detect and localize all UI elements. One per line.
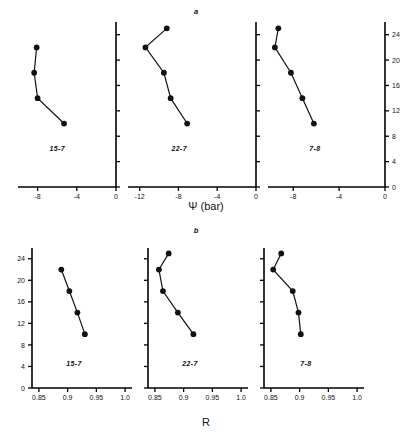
section-letter-a: a — [194, 7, 198, 16]
data-point-b2-3[interactable] — [175, 310, 181, 316]
data-point-b2-1[interactable] — [156, 267, 162, 273]
y-tick-label-a3-3: 12 — [392, 107, 400, 114]
data-point-a1-1[interactable] — [31, 70, 37, 76]
x-axis-title-r: R — [202, 416, 210, 428]
data-point-a2-2[interactable] — [161, 70, 167, 76]
data-point-a3-3[interactable] — [300, 95, 306, 101]
y-tick-label-a3-4: 16 — [392, 82, 400, 89]
panel-label-b2: 22-7 — [181, 360, 198, 367]
x-tick-label-a3-0: -8 — [290, 193, 296, 200]
x-tick-label-a1-0: -8 — [34, 193, 40, 200]
data-point-b3-1[interactable] — [270, 267, 276, 273]
panel-label-a1: 15-7 — [49, 145, 65, 152]
y-tick-label-b1-1: 4 — [21, 363, 25, 370]
data-point-b3-2[interactable] — [290, 288, 296, 294]
data-point-b3-3[interactable] — [296, 310, 302, 316]
data-point-a2-1[interactable] — [143, 44, 149, 50]
data-point-b2-4[interactable] — [191, 331, 197, 337]
y-tick-label-b1-2: 8 — [21, 342, 25, 349]
y-tick-label-a3-1: 4 — [392, 158, 396, 165]
x-tick-label-a2-0: -12 — [135, 193, 145, 200]
y-tick-label-a3-0: 0 — [392, 184, 396, 191]
x-tick-label-b2-3: 1.0 — [236, 394, 246, 401]
x-tick-label-b3-2: 0.95 — [322, 394, 336, 401]
scientific-figure: -8-4015-7-12-8-4022-7-8-40048121620247-8… — [0, 0, 413, 444]
data-point-b2-0[interactable] — [166, 250, 172, 256]
x-tick-label-a1-1: -4 — [74, 193, 80, 200]
data-point-a3-1[interactable] — [272, 44, 278, 50]
data-point-b1-0[interactable] — [58, 267, 64, 273]
x-tick-label-b2-2: 0.95 — [206, 394, 220, 401]
y-tick-label-a3-2: 8 — [392, 133, 396, 140]
data-point-a2-4[interactable] — [184, 121, 190, 127]
data-point-b3-4[interactable] — [298, 331, 304, 337]
data-point-b1-3[interactable] — [82, 331, 88, 337]
section-letter-b: b — [194, 226, 199, 235]
series-line-b1 — [61, 270, 85, 335]
y-tick-label-b1-6: 24 — [17, 255, 25, 262]
series-line-b2 — [159, 253, 193, 334]
x-tick-label-b3-0: 0.85 — [264, 394, 278, 401]
series-line-a1 — [34, 47, 64, 123]
x-tick-label-a3-1: -4 — [336, 193, 342, 200]
x-axis-title-psi: Ψ (bar) — [188, 200, 223, 212]
y-tick-label-a3-6: 24 — [392, 31, 400, 38]
series-line-b3 — [273, 253, 301, 334]
x-tick-label-a2-2: -4 — [214, 193, 220, 200]
data-point-a1-2[interactable] — [35, 95, 41, 101]
x-tick-label-a3-2: 0 — [383, 193, 387, 200]
x-tick-label-b1-1: 0.9 — [63, 394, 73, 401]
data-point-a2-0[interactable] — [164, 25, 170, 31]
panel-label-b3: 7-8 — [300, 360, 311, 367]
x-tick-label-a2-1: -8 — [175, 193, 181, 200]
data-point-a3-0[interactable] — [275, 25, 281, 31]
data-point-a3-2[interactable] — [288, 70, 294, 76]
x-tick-label-b1-2: 0.95 — [90, 394, 104, 401]
x-tick-label-b2-0: 0.85 — [148, 394, 162, 401]
series-line-a3 — [275, 28, 314, 123]
y-tick-label-b1-0: 0 — [21, 385, 25, 392]
data-point-a1-0[interactable] — [34, 44, 40, 50]
data-point-b1-1[interactable] — [66, 288, 72, 294]
panel-label-a3: 7-8 — [309, 145, 320, 152]
y-tick-label-b1-4: 16 — [17, 298, 25, 305]
x-tick-label-a1-2: 0 — [114, 193, 118, 200]
panel-label-b1: 15-7 — [66, 360, 82, 367]
data-point-b3-0[interactable] — [278, 250, 284, 256]
x-tick-label-a2-3: 0 — [254, 193, 258, 200]
panel-label-a2: 22-7 — [170, 145, 187, 152]
figure-canvas: -8-4015-7-12-8-4022-7-8-40048121620247-8… — [0, 0, 413, 444]
data-point-a2-3[interactable] — [168, 95, 174, 101]
series-line-a2 — [145, 28, 187, 123]
y-tick-label-a3-5: 20 — [392, 57, 400, 64]
x-tick-label-b3-3: 1.0 — [352, 394, 362, 401]
data-point-a3-4[interactable] — [311, 121, 317, 127]
data-point-b2-2[interactable] — [160, 288, 166, 294]
x-tick-label-b3-1: 0.9 — [295, 394, 305, 401]
data-point-b1-2[interactable] — [75, 310, 81, 316]
x-tick-label-b1-0: 0.85 — [32, 394, 46, 401]
x-tick-label-b1-3: 1.0 — [120, 394, 130, 401]
y-tick-label-b1-5: 20 — [17, 277, 25, 284]
data-point-a1-3[interactable] — [61, 121, 67, 127]
y-tick-label-b1-3: 12 — [17, 320, 25, 327]
x-tick-label-b2-1: 0.9 — [179, 394, 189, 401]
